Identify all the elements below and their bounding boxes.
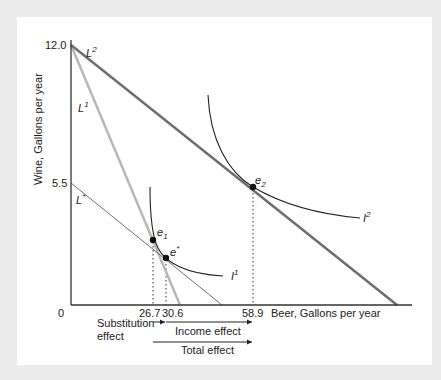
origin-label: 0 [58, 307, 64, 319]
income-effect-label: Income effect [175, 325, 241, 337]
label-e2: e2 [255, 174, 266, 189]
y-tick-5-5: 5.5 [52, 177, 67, 189]
income-substitution-diagram: Wine, Gallons per year Beer, Gallons per… [0, 0, 441, 380]
label-e1: e1 [157, 226, 168, 241]
budget-line-Lstar [71, 183, 222, 305]
x-tick-58-9: 58.9 [242, 307, 263, 319]
budget-line-L1 [71, 45, 180, 305]
y-axis-label: Wine, Gallons per year [32, 73, 44, 185]
point-estar [163, 255, 169, 261]
label-L1: L1 [78, 100, 89, 114]
label-I1: I1 [231, 268, 239, 282]
label-I2: I2 [363, 210, 371, 224]
budget-line-L2 [71, 45, 397, 305]
label-estar: e* [170, 244, 180, 258]
substitution-effect-label-1: Substitution [97, 317, 154, 329]
x-axis-label: Beer, Gallons per year [271, 307, 381, 319]
label-Lstar: L* [76, 192, 86, 206]
x-tick-30-6: 30.6 [162, 307, 183, 319]
indifference-curve-I2 [208, 95, 360, 218]
y-tick-12: 12.0 [45, 39, 66, 51]
total-effect-label: Total effect [181, 344, 234, 356]
point-e1 [150, 237, 156, 243]
substitution-effect-label-2: effect [97, 330, 124, 342]
label-L2: L2 [86, 45, 97, 59]
